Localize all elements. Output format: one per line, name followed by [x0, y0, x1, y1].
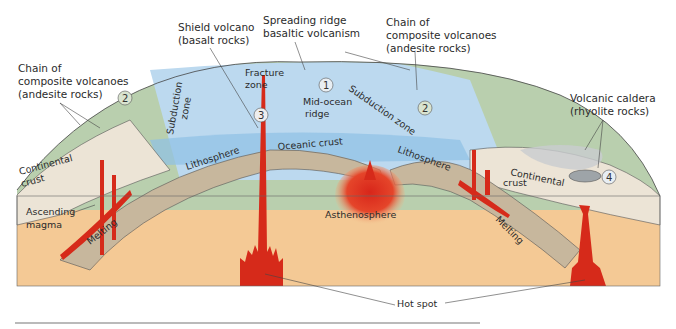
svg-text:composite volcanoes: composite volcanoes: [18, 75, 129, 87]
plate-tectonics-diagram: Shield volcano (basalt rocks) Spreading …: [0, 0, 676, 329]
svg-text:Hot spot: Hot spot: [397, 298, 437, 309]
svg-text:Fracture: Fracture: [245, 67, 284, 78]
marker-2-left: 2: [118, 91, 132, 105]
marker-3: 3: [254, 108, 268, 122]
svg-text:zone: zone: [245, 79, 268, 90]
svg-text:(andesite rocks): (andesite rocks): [386, 42, 471, 54]
svg-text:composite volcanoes: composite volcanoes: [386, 29, 497, 41]
svg-text:Mid-ocean: Mid-ocean: [303, 96, 352, 107]
svg-text:Chain of: Chain of: [386, 16, 430, 28]
volcanic-caldera: [569, 170, 601, 182]
svg-text:(basalt rocks): (basalt rocks): [178, 34, 249, 46]
svg-text:crust: crust: [503, 177, 527, 188]
svg-text:Asthenosphere: Asthenosphere: [325, 209, 396, 220]
svg-text:4: 4: [606, 172, 612, 183]
svg-text:Ascending: Ascending: [26, 206, 75, 217]
svg-text:3: 3: [258, 110, 264, 121]
svg-text:magma: magma: [26, 219, 62, 230]
svg-text:2: 2: [122, 93, 128, 104]
svg-text:ridge: ridge: [305, 108, 330, 119]
svg-text:Chain of: Chain of: [18, 62, 62, 74]
svg-text:1: 1: [323, 80, 329, 91]
svg-text:(andesite rocks): (andesite rocks): [18, 88, 103, 100]
marker-4: 4: [602, 170, 616, 184]
svg-text:Volcanic caldera: Volcanic caldera: [570, 92, 656, 104]
svg-text:basaltic volcanism: basaltic volcanism: [263, 27, 360, 39]
svg-text:Spreading ridge: Spreading ridge: [263, 14, 347, 26]
marker-2-right: 2: [418, 101, 432, 115]
svg-text:2: 2: [422, 103, 428, 114]
svg-text:(rhyolite rocks): (rhyolite rocks): [570, 105, 649, 117]
marker-1: 1: [319, 78, 333, 92]
svg-text:Shield volcano: Shield volcano: [178, 21, 254, 33]
